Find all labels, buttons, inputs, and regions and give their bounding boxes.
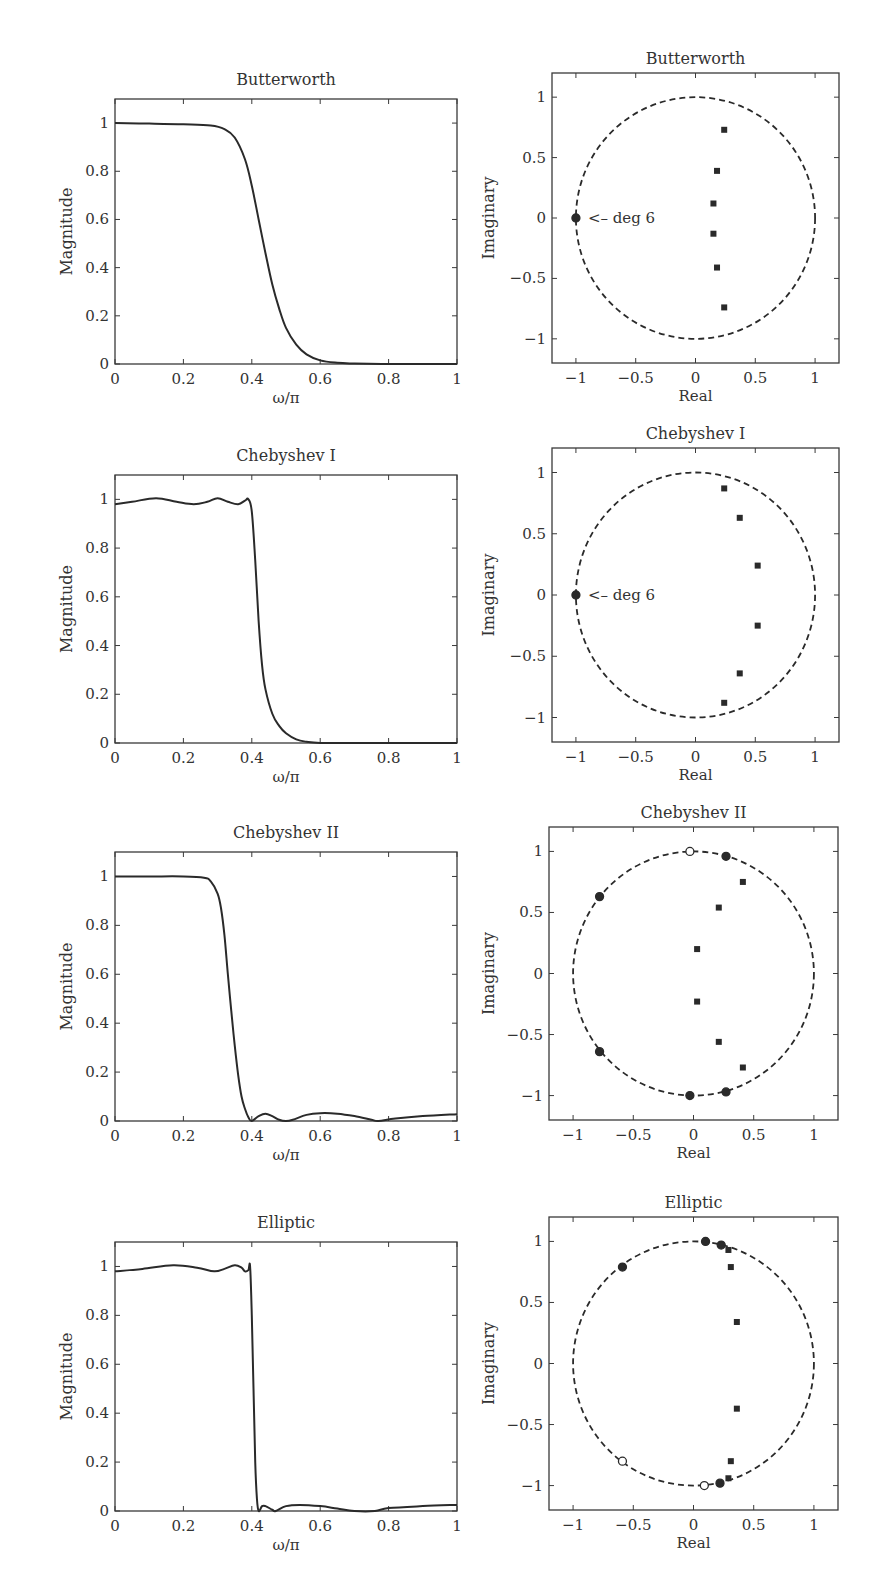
- pole-marker-icon: [714, 168, 720, 174]
- elliptic-pz-panel: −1−0.500.51−1−0.500.51EllipticRealImagin…: [479, 1193, 838, 1552]
- elliptic-mag-xtick-label: 0.4: [240, 1517, 264, 1535]
- butterworth-pz-xtick-label: −0.5: [617, 369, 653, 387]
- chebyshev1-pz-panel: −1−0.500.51−1−0.500.51<– deg 6Chebyshev …: [479, 424, 839, 784]
- elliptic-mag-xtick-label: 0.6: [308, 1517, 332, 1535]
- elliptic-pz-ylabel: Imaginary: [479, 1322, 498, 1405]
- chebyshev2-mag-ytick-label: 0: [99, 1112, 109, 1130]
- chebyshev1-pz-xlabel: Real: [679, 766, 713, 784]
- butterworth-mag-xtick-label: 0.8: [377, 370, 401, 388]
- chebyshev2-mag-xtick-label: 0.4: [240, 1127, 264, 1145]
- pole-marker-icon: [737, 515, 743, 521]
- chebyshev2-mag-xtick-label: 0.2: [171, 1127, 195, 1145]
- pole-marker-icon: [716, 905, 722, 911]
- pole-marker-icon: [725, 1247, 731, 1253]
- pole-marker-icon: [710, 201, 716, 207]
- pole-marker-icon: [734, 1406, 740, 1412]
- chebyshev1-pz-xtick-label: 0: [691, 748, 701, 766]
- chebyshev1-mag-title: Chebyshev I: [236, 446, 336, 465]
- butterworth-pz-ytick-label: 0.5: [522, 149, 546, 167]
- chebyshev2-pz-title: Chebyshev II: [640, 803, 746, 822]
- butterworth-pz-xtick-label: 0.5: [743, 369, 767, 387]
- chebyshev1-pz-ytick-label: −1: [524, 709, 546, 727]
- butterworth-mag-ytick-label: 0.2: [85, 307, 109, 325]
- chebyshev2-pz-ytick-label: 1: [533, 842, 543, 860]
- elliptic-mag-panel: 00.20.40.60.8100.20.40.60.81Ellipticω/πM…: [57, 1213, 462, 1554]
- chebyshev2-mag-axes-frame: [115, 852, 457, 1121]
- chebyshev1-mag-xtick-label: 0.4: [240, 749, 264, 767]
- butterworth-pz-ytick-label: −1: [524, 330, 546, 348]
- chebyshev2-pz-xtick-label: −0.5: [615, 1126, 651, 1144]
- butterworth-pz-ytick-label: 1: [536, 88, 546, 106]
- chebyshev2-pz-xtick-label: 0.5: [742, 1126, 766, 1144]
- chebyshev2-mag-xlabel: ω/π: [272, 1146, 299, 1164]
- pole-marker-icon: [728, 1458, 734, 1464]
- chebyshev1-pz-ytick-label: 0.5: [522, 525, 546, 543]
- zero-marker-open-icon: [700, 1482, 708, 1490]
- chebyshev1-pz-annotation: <– deg 6: [588, 586, 655, 604]
- elliptic-mag-ytick-label: 0: [99, 1502, 109, 1520]
- elliptic-mag-xtick-label: 1: [452, 1517, 462, 1535]
- butterworth-mag-title: Butterworth: [236, 70, 336, 89]
- chebyshev1-mag-xtick-label: 0.2: [171, 749, 195, 767]
- zero-marker-filled-icon: [618, 1263, 626, 1271]
- chebyshev1-mag-axes-frame: [115, 475, 457, 743]
- butterworth-pz-xtick-label: −1: [565, 369, 587, 387]
- butterworth-pz-ylabel: Imaginary: [479, 177, 498, 260]
- chebyshev1-pz-ylabel: Imaginary: [479, 554, 498, 637]
- elliptic-pz-xtick-label: −1: [562, 1516, 584, 1534]
- pole-marker-icon: [734, 1319, 740, 1325]
- elliptic-pz-axes-frame: [549, 1217, 838, 1510]
- elliptic-mag-axes-frame: [115, 1242, 457, 1511]
- chebyshev2-mag-ytick-label: 0.2: [85, 1063, 109, 1081]
- pole-marker-icon: [721, 485, 727, 491]
- pole-marker-icon: [728, 1264, 734, 1270]
- chebyshev1-pz-ytick-label: 1: [536, 464, 546, 482]
- chebyshev1-mag-ylabel: Magnitude: [57, 565, 76, 653]
- chebyshev1-pz-xtick-label: 0.5: [743, 748, 767, 766]
- chebyshev1-pz-xtick-label: −0.5: [617, 748, 653, 766]
- chebyshev1-pz-ytick-label: 0: [536, 586, 546, 604]
- pole-marker-icon: [721, 700, 727, 706]
- butterworth-mag-xtick-label: 1: [452, 370, 462, 388]
- chebyshev1-mag-xtick-label: 0.8: [377, 749, 401, 767]
- elliptic-mag-ylabel: Magnitude: [57, 1332, 76, 1420]
- zero-marker-filled-icon: [572, 591, 580, 599]
- elliptic-pz-ytick-label: −1: [521, 1477, 543, 1495]
- chebyshev2-mag-ytick-label: 0.8: [85, 916, 109, 934]
- elliptic-mag-xtick-label: 0.2: [171, 1517, 195, 1535]
- elliptic-pz-xlabel: Real: [677, 1534, 711, 1552]
- chebyshev2-mag-ytick-label: 1: [99, 867, 109, 885]
- chebyshev2-pz-ytick-label: −1: [521, 1087, 543, 1105]
- butterworth-mag-ylabel: Magnitude: [57, 187, 76, 275]
- zero-marker-filled-icon: [717, 1241, 725, 1249]
- elliptic-pz-unit-circle: [573, 1241, 814, 1485]
- elliptic-mag-xtick-label: 0.8: [377, 1517, 401, 1535]
- butterworth-pz-xtick-label: 1: [810, 369, 820, 387]
- elliptic-pz-ytick-label: 0: [533, 1355, 543, 1373]
- elliptic-pz-xtick-label: 1: [809, 1516, 819, 1534]
- elliptic-mag-ytick-label: 0.2: [85, 1453, 109, 1471]
- butterworth-mag-ytick-label: 1: [99, 114, 109, 132]
- chebyshev2-pz-unit-circle: [573, 851, 814, 1095]
- butterworth-mag-xtick-label: 0.6: [308, 370, 332, 388]
- elliptic-mag-xtick-label: 0: [110, 1517, 120, 1535]
- butterworth-pz-xlabel: Real: [679, 387, 713, 405]
- butterworth-mag-ytick-label: 0.6: [85, 210, 109, 228]
- chebyshev1-mag-curve: [115, 498, 457, 743]
- zero-marker-filled-icon: [716, 1479, 724, 1487]
- elliptic-pz-title: Elliptic: [665, 1193, 723, 1212]
- butterworth-pz-title: Butterworth: [646, 49, 746, 68]
- pole-marker-icon: [710, 231, 716, 237]
- chebyshev2-mag-xtick-label: 1: [452, 1127, 462, 1145]
- butterworth-mag-ytick-label: 0.8: [85, 162, 109, 180]
- butterworth-mag-xtick-label: 0.2: [171, 370, 195, 388]
- butterworth-mag-xlabel: ω/π: [272, 389, 299, 407]
- chebyshev2-pz-ytick-label: −0.5: [507, 1026, 543, 1044]
- pole-marker-icon: [737, 670, 743, 676]
- elliptic-pz-ytick-label: 1: [533, 1232, 543, 1250]
- chebyshev2-mag-ytick-label: 0.6: [85, 965, 109, 983]
- chebyshev1-mag-xlabel: ω/π: [272, 768, 299, 786]
- chebyshev1-pz-title: Chebyshev I: [646, 424, 746, 443]
- chebyshev1-mag-ytick-label: 0.2: [85, 685, 109, 703]
- elliptic-mag-ytick-label: 1: [99, 1257, 109, 1275]
